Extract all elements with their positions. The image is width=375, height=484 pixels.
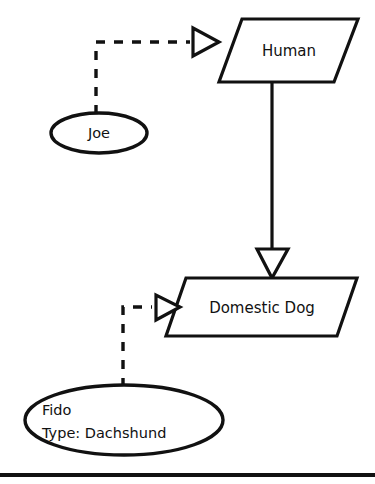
hollow-triangle-down-arrowhead-icon: [257, 249, 288, 278]
class-node-domestic-dog[interactable]: Domestic Dog: [166, 278, 357, 336]
domestic-dog-label: Domestic Dog: [209, 299, 315, 317]
hollow-triangle-arrowhead-icon: [193, 28, 219, 56]
fido-ellipse-shape: [25, 385, 223, 455]
class-node-human[interactable]: Human: [219, 19, 358, 82]
human-label: Human: [262, 42, 316, 60]
edge-joe-to-human-line: [96, 42, 190, 114]
edge-joe-to-human: [96, 28, 219, 114]
fido-label-name: Fido: [42, 402, 72, 418]
uml-diagram-root: Human Joe Domestic Dog Fido Type: Dachsh…: [0, 0, 375, 484]
joe-label: Joe: [87, 125, 110, 141]
edge-fido-to-domestic-dog: [123, 295, 180, 387]
fido-label-type: Type: Dachshund: [41, 425, 166, 441]
edge-fido-to-domestic-dog-line: [123, 307, 152, 387]
instance-node-fido[interactable]: Fido Type: Dachshund: [25, 385, 223, 455]
edge-human-to-domestic-dog: [257, 82, 288, 278]
diagram-canvas: Human Joe Domestic Dog Fido Type: Dachsh…: [0, 0, 375, 484]
instance-node-joe[interactable]: Joe: [51, 113, 147, 153]
